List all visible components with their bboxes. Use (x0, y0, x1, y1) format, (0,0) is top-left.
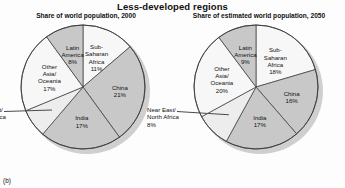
figure-panel-b: Less-developed regions Share of world po… (0, 0, 345, 188)
pie-chart-2050: Sub- Saharan Africa 18%China 16%India 17… (193, 24, 325, 156)
figure-title: Less-developed regions (0, 1, 345, 12)
pie-chart-2000: Sub- Saharan Africa 11%China 21%India 17… (20, 24, 152, 156)
slice-label-near-east-north-africa: Near East/ North Africa 6% (0, 106, 6, 128)
subfigure-label: (b) (3, 177, 11, 184)
chart-panel-2050: Share of estimated world population, 205… (173, 12, 345, 172)
pie-svg-2050 (193, 24, 321, 152)
chart-panel-2000: Share of world population, 2000 Sub- Sah… (0, 12, 172, 172)
pie-svg-2000 (20, 24, 148, 152)
chart-title-2000: Share of world population, 2000 (0, 12, 172, 19)
chart-title-2050: Share of estimated world population, 205… (173, 12, 345, 19)
